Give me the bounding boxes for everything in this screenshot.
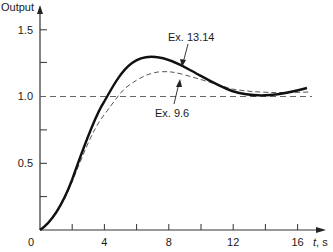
x-axis-unit: , s (316, 236, 328, 248)
x-tick-label-0: 0 (28, 236, 34, 248)
arrowhead-icon (176, 79, 182, 87)
series-ex-13-14 (40, 57, 307, 230)
y-tick-label-1.5: 1.5 (18, 24, 33, 36)
x-tick-label-4: 4 (101, 236, 107, 248)
y-tick-label-1.0: 1.0 (18, 90, 33, 102)
x-tick-label-16: 16 (291, 236, 303, 248)
annotation-ex-9-6: Ex. 9.6 (155, 79, 189, 119)
x-tick-label-12: 12 (227, 236, 239, 248)
x-axis-title: t, s (313, 236, 328, 248)
step-response-chart: 0 4 8 12 16 t, s 0.5 1.0 1.5 Output Ex. … (0, 0, 333, 252)
y-axis-arrow-icon (37, 5, 43, 14)
y-ticks (40, 30, 47, 197)
x-tick-label-8: 8 (166, 236, 172, 248)
x-ticks (72, 224, 297, 230)
x-axis-arrow-icon (316, 227, 326, 233)
y-axis-title: Output (1, 1, 34, 13)
annotation-label-ex-13-14: Ex. 13.14 (168, 31, 214, 43)
y-tick-label-0.5: 0.5 (18, 157, 33, 169)
annotation-label-ex-9-6: Ex. 9.6 (155, 107, 189, 119)
